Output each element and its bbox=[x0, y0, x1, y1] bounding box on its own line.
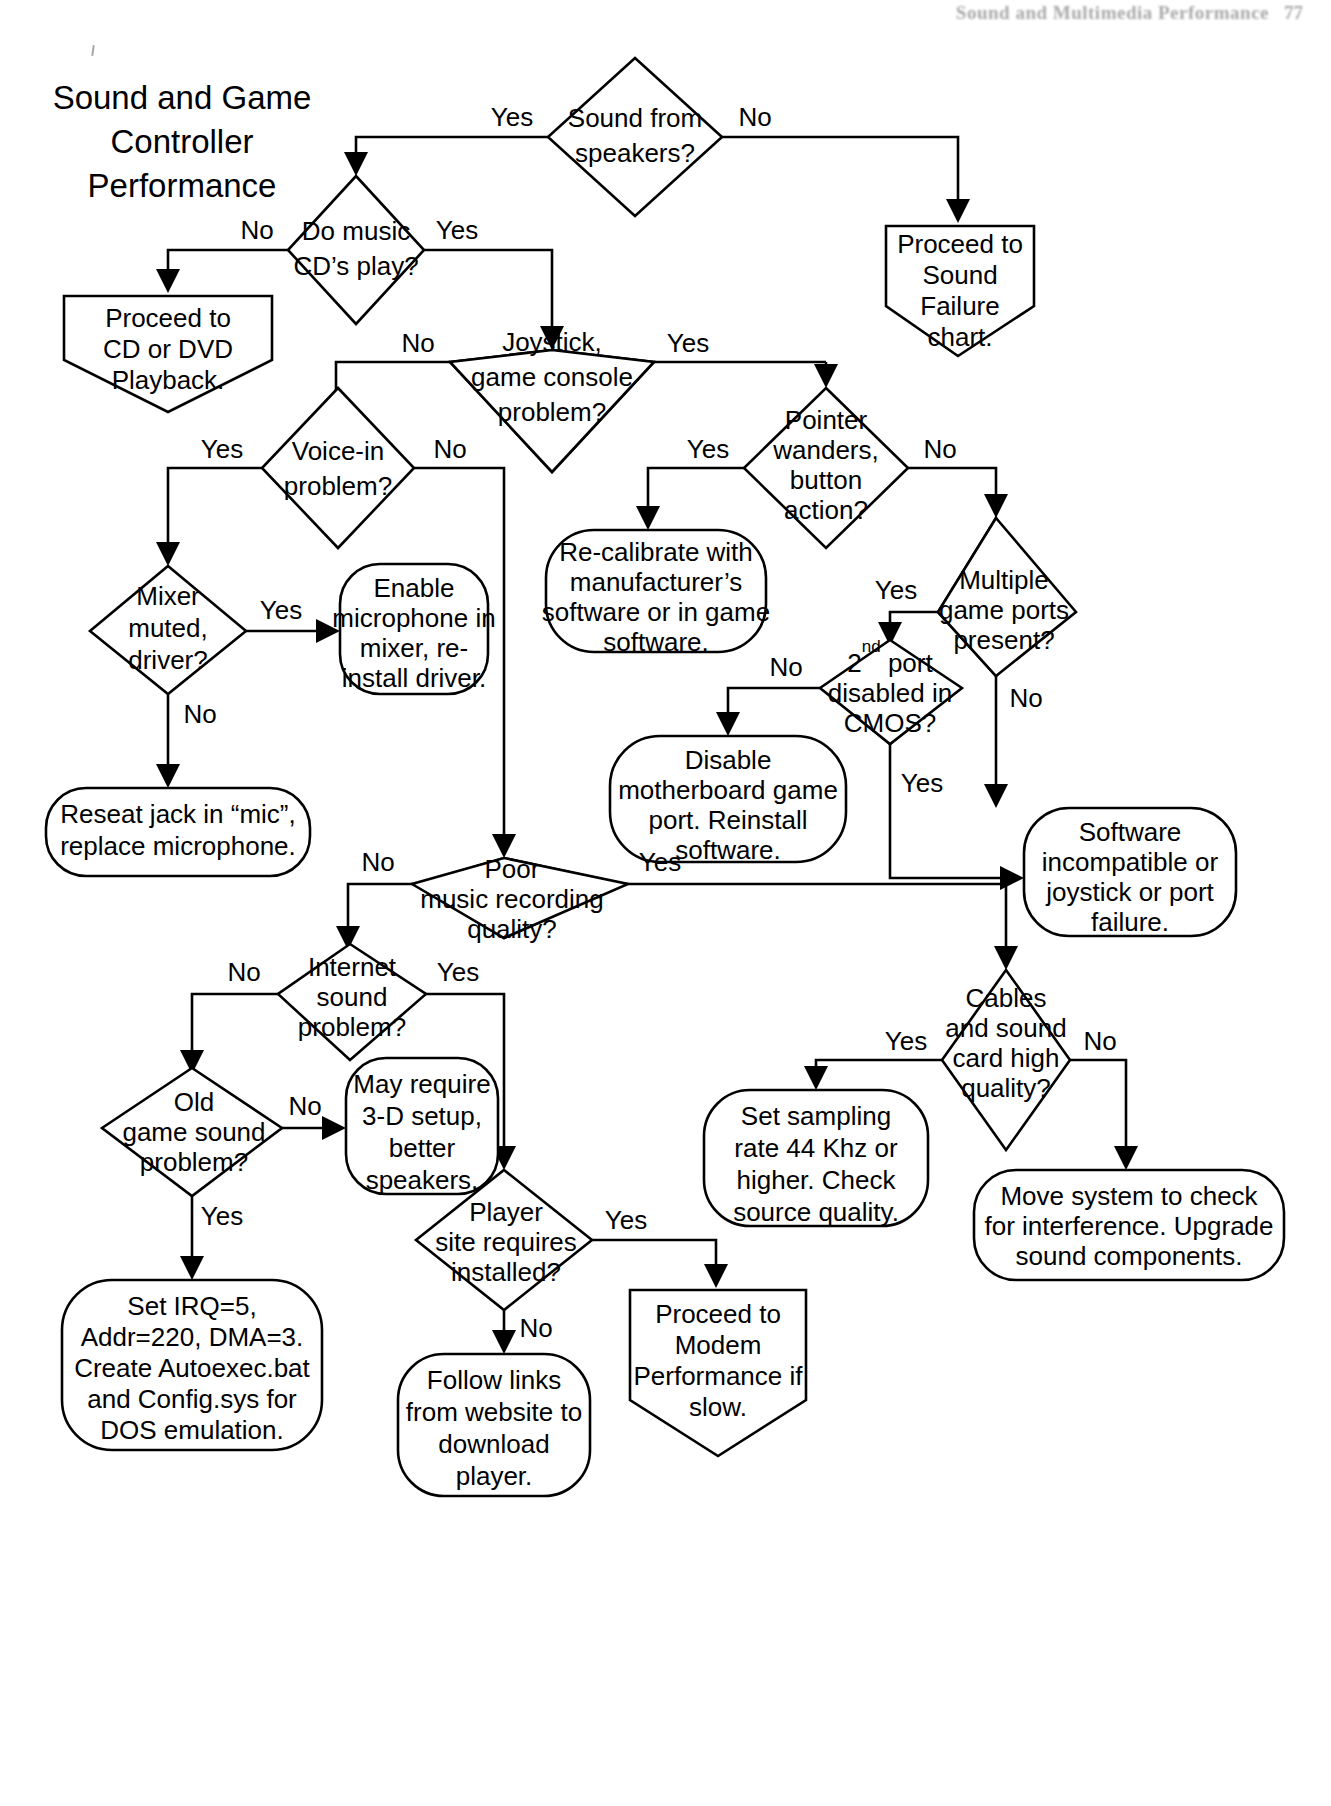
edge-label-no: No bbox=[519, 1313, 552, 1343]
node-label: Modem bbox=[675, 1330, 762, 1360]
node-disable-motherboard-port[interactable]: Disable motherboard game port. Reinstall… bbox=[610, 736, 846, 865]
node-label: failure. bbox=[1091, 907, 1169, 937]
node-label: Reseat jack in “mic”, bbox=[60, 799, 296, 829]
edge-label-yes: Yes bbox=[201, 434, 243, 464]
node-multiple-game-ports[interactable]: Multiple game ports present? bbox=[938, 518, 1076, 676]
node-label: Sound from bbox=[568, 103, 702, 133]
node-follow-links[interactable]: Follow links from website to download pl… bbox=[398, 1354, 590, 1496]
node-reseat-jack[interactable]: Reseat jack in “mic”, replace microphone… bbox=[46, 788, 310, 876]
chart-title: Sound and Game Controller Performance bbox=[53, 79, 312, 204]
node-label: Sound bbox=[922, 260, 997, 290]
node-label: DOS emulation. bbox=[100, 1415, 284, 1445]
node-cables-sound-card[interactable]: Cables and sound card high quality? bbox=[942, 970, 1070, 1150]
node-proceed-sound-failure[interactable]: Proceed to Sound Failure chart. bbox=[886, 226, 1034, 356]
node-label: joystick or port bbox=[1045, 877, 1214, 907]
node-label: wanders, bbox=[772, 435, 879, 465]
node-move-system[interactable]: Move system to check for interference. U… bbox=[974, 1170, 1284, 1280]
node-label: Old bbox=[174, 1087, 214, 1117]
node-label: problem? bbox=[140, 1147, 248, 1177]
node-label: Set sampling bbox=[741, 1101, 891, 1131]
edge-label-yes: Yes bbox=[901, 768, 943, 798]
node-label: Proceed to bbox=[897, 229, 1023, 259]
node-label: Performance if bbox=[633, 1361, 803, 1391]
node-label: software. bbox=[603, 627, 709, 657]
node-label: quality? bbox=[467, 914, 557, 944]
node-label: manufacturer’s bbox=[570, 567, 742, 597]
node-label: CD or DVD bbox=[103, 334, 233, 364]
node-label: software. bbox=[675, 835, 781, 865]
node-label: button bbox=[790, 465, 862, 495]
node-old-game-sound[interactable]: Old game sound problem? bbox=[102, 1068, 282, 1196]
node-enable-microphone[interactable]: Enable microphone in mixer, re- install … bbox=[332, 564, 495, 694]
edge-label-no: No bbox=[769, 652, 802, 682]
node-second-port-cmos[interactable]: 2nd port disabled in CMOS? bbox=[820, 637, 962, 744]
node-label: quality? bbox=[961, 1073, 1051, 1103]
node-label: from website to bbox=[406, 1397, 582, 1427]
node-proceed-cd-dvd[interactable]: Proceed to CD or DVD Playback. bbox=[64, 296, 272, 412]
node-label: game console bbox=[471, 362, 633, 392]
title-line-2: Controller bbox=[110, 123, 253, 160]
node-label: incompatible or bbox=[1042, 847, 1219, 877]
node-label: Failure bbox=[920, 291, 999, 321]
edge-label-no: No bbox=[1009, 683, 1042, 713]
node-label: Move system to check bbox=[1000, 1181, 1258, 1211]
node-label: CD’s play? bbox=[293, 251, 418, 281]
node-label: action? bbox=[784, 495, 868, 525]
node-recalibrate[interactable]: Re-calibrate with manufacturer’s softwar… bbox=[542, 530, 770, 657]
node-label: slow. bbox=[689, 1392, 747, 1422]
node-label: problem? bbox=[498, 397, 606, 427]
node-sound-from-speakers[interactable]: Sound from speakers? bbox=[548, 58, 722, 216]
node-may-require-3d[interactable]: May require 3-D setup, better speakers. bbox=[346, 1058, 498, 1195]
node-label: Cables bbox=[966, 983, 1047, 1013]
edge-label-no: No bbox=[1083, 1026, 1116, 1056]
node-label: Pointer bbox=[785, 405, 868, 435]
node-label: Proceed to bbox=[655, 1299, 781, 1329]
node-label: card high bbox=[953, 1043, 1060, 1073]
node-proceed-modem[interactable]: Proceed to Modem Performance if slow. bbox=[630, 1290, 806, 1456]
node-label: Set IRQ=5, bbox=[127, 1291, 256, 1321]
node-label: game sound bbox=[122, 1117, 265, 1147]
node-mixer-muted[interactable]: Mixer muted, driver? bbox=[90, 566, 246, 694]
node-label: CMOS? bbox=[844, 708, 936, 738]
node-label: software or in game bbox=[542, 597, 770, 627]
edge-label-yes: Yes bbox=[639, 847, 681, 877]
node-do-music-cds-play[interactable]: Do music CD’s play? bbox=[288, 176, 424, 324]
node-label: for interference. Upgrade bbox=[984, 1211, 1273, 1241]
title-line-3: Performance bbox=[88, 167, 277, 204]
node-label: Playback. bbox=[112, 365, 225, 395]
node-label: Re-calibrate with bbox=[559, 537, 753, 567]
node-internet-sound-problem[interactable]: Internet sound problem? bbox=[278, 944, 426, 1060]
node-label: microphone in bbox=[332, 603, 495, 633]
node-set-irq[interactable]: Set IRQ=5, Addr=220, DMA=3. Create Autoe… bbox=[62, 1280, 322, 1450]
edge-label-no: No bbox=[361, 847, 394, 877]
node-label: port. Reinstall bbox=[649, 805, 808, 835]
node-label: source quality. bbox=[733, 1197, 899, 1227]
node-label: Proceed to bbox=[105, 303, 231, 333]
flowchart-page: Sound and Multimedia Performance 77 Soun… bbox=[0, 0, 1331, 1806]
node-label: sound components. bbox=[1016, 1241, 1243, 1271]
node-voice-in-problem[interactable]: Voice-in problem? bbox=[262, 388, 414, 548]
node-poor-music-recording[interactable]: Poor music recording quality? bbox=[412, 854, 628, 944]
node-label: Internet bbox=[308, 952, 397, 982]
edge-label-yes: Yes bbox=[260, 595, 302, 625]
node-label: higher. Check bbox=[737, 1165, 897, 1195]
edge-label-yes: Yes bbox=[201, 1201, 243, 1231]
edge-label-yes: Yes bbox=[885, 1026, 927, 1056]
node-label: Do music bbox=[302, 216, 410, 246]
node-pointer-wanders[interactable]: Pointer wanders, button action? bbox=[744, 388, 908, 548]
node-label: better bbox=[389, 1133, 456, 1163]
edge-label-yes: Yes bbox=[667, 328, 709, 358]
edge-label-no: No bbox=[923, 434, 956, 464]
node-label: speakers. bbox=[366, 1165, 479, 1195]
edge-label-yes: Yes bbox=[875, 575, 917, 605]
node-label: speakers? bbox=[575, 138, 695, 168]
node-joystick-game-console[interactable]: Joystick, game console problem? bbox=[450, 327, 654, 472]
node-label: music recording bbox=[420, 884, 604, 914]
node-set-sampling-rate[interactable]: Set sampling rate 44 Khz or higher. Chec… bbox=[704, 1090, 928, 1227]
node-label: problem? bbox=[284, 471, 392, 501]
node-label: Mixer bbox=[136, 581, 200, 611]
node-label: Create Autoexec.bat bbox=[74, 1353, 310, 1383]
node-label: Software bbox=[1079, 817, 1182, 847]
node-software-incompatible[interactable]: Software incompatible or joystick or por… bbox=[1024, 808, 1236, 937]
node-label: Follow links bbox=[427, 1365, 561, 1395]
